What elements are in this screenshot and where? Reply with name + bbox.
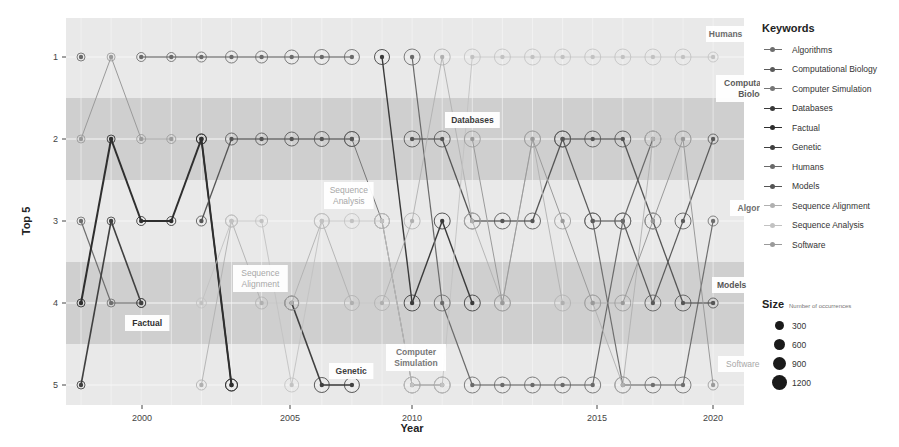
series-label-algorithms: Algorithms [730, 200, 760, 216]
data-point [470, 137, 474, 141]
legend-label: Algorithms [792, 45, 832, 55]
data-point [621, 137, 625, 141]
data-point [681, 301, 685, 305]
series-label-computational-biology: ComputationalBiology [716, 75, 760, 102]
series-label-genetic: Genetic [329, 363, 373, 379]
legend-line-point-icon [762, 142, 784, 152]
size-legend: Size Number of occurrences 3006009001200 [762, 298, 899, 392]
series-label-computer-simulation: ComputerSimulation [386, 344, 446, 371]
series-label-software: Software [718, 356, 760, 372]
data-point [79, 137, 83, 141]
data-point [380, 219, 384, 223]
data-point [229, 383, 233, 387]
data-point [259, 301, 263, 305]
svg-text:Simulation: Simulation [394, 358, 437, 368]
data-point [530, 219, 534, 223]
plot-area: 1234520002005201020152020YearTop 5Algori… [0, 0, 760, 447]
svg-text:Sequence: Sequence [330, 185, 369, 195]
data-point [651, 383, 655, 387]
series-label-factual: Factual [125, 315, 169, 331]
series-label-sequence-analysis: SequenceAnalysis [324, 182, 374, 209]
x-axis-title: Year [400, 422, 424, 434]
data-point [350, 301, 354, 305]
x-tick-label: 2005 [280, 413, 300, 423]
data-point [591, 219, 595, 223]
legend-item-humans: Humans [762, 157, 899, 177]
data-point [79, 55, 83, 59]
svg-text:Sequence: Sequence [241, 268, 280, 278]
size-circle-icon [775, 321, 784, 330]
data-point [591, 55, 595, 59]
data-point [290, 301, 294, 305]
data-point [560, 55, 564, 59]
data-point [169, 55, 173, 59]
legend-label: Sequence Analysis [792, 220, 864, 230]
data-point [109, 219, 113, 223]
legend-label: Models [792, 181, 819, 191]
data-point [229, 55, 233, 59]
data-point [320, 383, 324, 387]
svg-text:Alignment: Alignment [241, 279, 279, 289]
legend-item-sequence-alignment: Sequence Alignment [762, 196, 899, 216]
data-point [711, 219, 715, 223]
y-axis-title: Top 5 [20, 207, 32, 236]
data-point [440, 137, 444, 141]
data-point [79, 383, 83, 387]
legend-line-point-icon [762, 220, 784, 230]
legend-item-databases: Databases [762, 99, 899, 119]
data-point [410, 219, 414, 223]
data-point [621, 383, 625, 387]
svg-text:Computer: Computer [396, 347, 437, 357]
legend-item-genetic: Genetic [762, 138, 899, 158]
data-point [560, 219, 564, 223]
data-point [259, 137, 263, 141]
data-point [139, 137, 143, 141]
data-point [199, 383, 203, 387]
data-point [290, 137, 294, 141]
data-point [139, 301, 143, 305]
size-legend-label: 900 [792, 359, 806, 369]
data-point [290, 55, 294, 59]
data-point [651, 219, 655, 223]
x-tick-label: 2000 [132, 413, 152, 423]
legend-line-point-icon [762, 64, 784, 74]
data-point [169, 219, 173, 223]
data-point [410, 301, 414, 305]
svg-text:Analysis: Analysis [333, 196, 365, 206]
data-point [681, 137, 685, 141]
legend-line-point-icon [762, 181, 784, 191]
data-point [470, 383, 474, 387]
legend-item-software: Software [762, 235, 899, 255]
size-legend-label: 1200 [792, 378, 811, 388]
data-point [440, 383, 444, 387]
size-circle-icon [773, 357, 786, 370]
data-point [79, 219, 83, 223]
data-point [350, 219, 354, 223]
data-point [320, 137, 324, 141]
data-point [681, 55, 685, 59]
data-point [470, 55, 474, 59]
legend-item-computational-biology: Computational Biology [762, 60, 899, 80]
data-point [259, 55, 263, 59]
legend-line-point-icon [762, 162, 784, 172]
data-point [530, 55, 534, 59]
data-point [711, 383, 715, 387]
series-label-databases: Databases [445, 112, 500, 128]
size-legend-label: 300 [792, 321, 806, 331]
data-point [651, 137, 655, 141]
x-tick-label: 2020 [703, 413, 723, 423]
data-point [440, 55, 444, 59]
legend-item-models: Models [762, 177, 899, 197]
legend-title: Keywords [762, 22, 899, 34]
data-point [470, 301, 474, 305]
data-point [410, 55, 414, 59]
data-point [410, 137, 414, 141]
data-point [560, 137, 564, 141]
svg-text:Models: Models [717, 280, 747, 290]
data-point [320, 55, 324, 59]
data-point [320, 219, 324, 223]
data-point [591, 301, 595, 305]
series-label-models: Models [712, 277, 751, 293]
data-point [530, 137, 534, 141]
size-circle-icon [772, 375, 787, 390]
